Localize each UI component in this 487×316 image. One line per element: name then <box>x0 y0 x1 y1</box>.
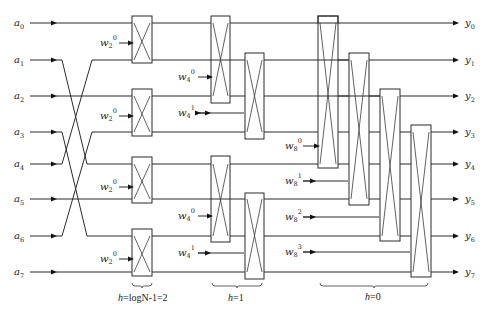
svg-text:w40: w40 <box>178 68 195 84</box>
svg-text:w82: w82 <box>285 208 302 224</box>
twiddle-w8-2: w82 <box>285 208 379 224</box>
stage-2: w40 w41 w40 w41 h=1 <box>178 16 411 303</box>
svg-text:w20: w20 <box>100 250 117 266</box>
twiddle-w4-0: w40 <box>178 68 210 84</box>
butterfly-box <box>245 193 264 279</box>
svg-text:w20: w20 <box>100 107 117 123</box>
input-label-a5: a5 <box>14 193 24 207</box>
stage-3-brace <box>320 283 428 288</box>
twiddle-w4-0: w40 <box>178 207 210 223</box>
output-label-y4: y4 <box>464 158 475 172</box>
svg-text:w80: w80 <box>285 137 302 153</box>
butterfly-box <box>245 53 264 139</box>
butterfly-box <box>349 53 369 205</box>
svg-text:w41: w41 <box>178 244 195 260</box>
stage-3: w80 w81 w82 w83 h=0 <box>285 16 456 302</box>
output-label-y3: y3 <box>464 126 475 140</box>
twiddle-w2-0: w20 <box>100 107 131 123</box>
butterfly-box <box>132 157 152 203</box>
twiddle-w4-1: w41 <box>178 244 244 260</box>
svg-text:w20: w20 <box>100 34 117 50</box>
input-label-a1: a1 <box>14 54 24 68</box>
twiddle-w4-1: w41 <box>178 104 244 120</box>
output-label-y6: y6 <box>464 230 475 244</box>
stage-2-caption: h=1 <box>228 292 244 303</box>
stage-1-brace <box>132 283 152 288</box>
twiddle-w2-0: w20 <box>100 250 131 266</box>
butterfly-box <box>380 89 400 241</box>
output-label-y0: y0 <box>464 17 475 31</box>
svg-text:w20: w20 <box>100 178 117 194</box>
input-label-a0: a0 <box>14 17 24 31</box>
input-arrows <box>30 23 54 272</box>
stage-1: w20 w20 w20 w20 h=logN-1=2 <box>100 16 245 303</box>
input-label-a7: a7 <box>14 266 24 280</box>
output-label-y5: y5 <box>464 193 475 207</box>
svg-text:w41: w41 <box>178 104 195 120</box>
permutation-wires <box>54 23 132 272</box>
twiddle-w8-1: w81 <box>285 172 348 188</box>
butterfly-box <box>318 16 338 168</box>
svg-text:w81: w81 <box>285 172 302 188</box>
output-label-y1: y1 <box>464 54 475 68</box>
input-label-a4: a4 <box>14 158 24 172</box>
input-labels: a0 a1 a2 a3 a4 a5 a6 a7 <box>14 17 24 280</box>
svg-text:w40: w40 <box>178 207 195 223</box>
butterfly-box <box>132 89 152 136</box>
fft-butterfly-diagram: a0 a1 a2 a3 a4 a5 a6 a7 <box>0 0 487 316</box>
stage-1-caption: h=logN-1=2 <box>118 292 168 303</box>
twiddle-w2-0: w20 <box>100 34 131 50</box>
output-label-y2: y2 <box>464 90 475 104</box>
butterfly-box <box>411 125 431 277</box>
input-label-a6: a6 <box>14 230 24 244</box>
twiddle-w2-0: w20 <box>100 178 131 194</box>
input-label-a2: a2 <box>14 90 24 104</box>
butterfly-box <box>132 16 152 63</box>
svg-text:w83: w83 <box>285 243 302 259</box>
butterfly-box <box>132 229 152 276</box>
stage-2-brace <box>212 283 262 288</box>
twiddle-w8-0: w80 <box>285 137 317 153</box>
stage-3-caption: h=0 <box>365 291 381 302</box>
output-labels: y0 y1 y2 y3 y4 y5 y6 y7 <box>464 17 475 280</box>
twiddle-w8-3: w83 <box>285 243 410 259</box>
output-label-y7: y7 <box>464 266 475 280</box>
input-label-a3: a3 <box>14 126 24 140</box>
